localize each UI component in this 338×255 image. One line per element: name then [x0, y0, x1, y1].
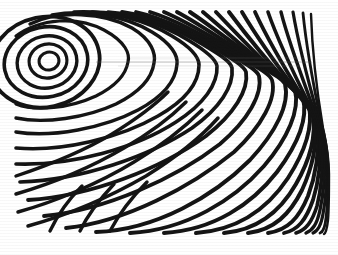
figure-root	[0, 0, 338, 255]
contour-canvas	[0, 0, 338, 255]
